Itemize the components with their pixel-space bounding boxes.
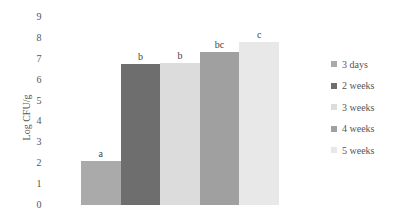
y-tick-label: 5 xyxy=(33,95,45,106)
y-tick-label: 4 xyxy=(33,115,45,126)
y-axis-label: Log CFU/g xyxy=(21,95,32,141)
bar-2-weeks xyxy=(121,64,161,205)
bar-3-weeks xyxy=(160,63,200,205)
legend-item: 2 weeks xyxy=(331,81,375,91)
significance-label: a xyxy=(81,148,121,159)
legend-item: 3 days xyxy=(331,59,375,69)
y-tick-label: 2 xyxy=(33,157,45,168)
legend-swatch-icon xyxy=(331,104,337,110)
y-tick-label: 1 xyxy=(33,178,45,189)
significance-label: b xyxy=(160,50,200,61)
bar-4-weeks xyxy=(200,52,240,205)
y-tick-label: 8 xyxy=(33,32,45,43)
significance-label: b xyxy=(121,51,161,62)
legend-label: 3 days xyxy=(342,59,368,70)
significance-label: c xyxy=(239,29,279,40)
y-tick-label: 0 xyxy=(33,199,45,210)
y-tick-label: 6 xyxy=(33,74,45,85)
legend-swatch-icon xyxy=(331,147,337,153)
legend-item: 5 weeks xyxy=(331,145,375,155)
legend: 3 days2 weeks3 weeks4 weeks5 weeks xyxy=(331,59,375,167)
legend-label: 4 weeks xyxy=(342,123,375,134)
bar-3-days xyxy=(81,161,121,205)
legend-label: 2 weeks xyxy=(342,80,375,91)
bar-5-weeks xyxy=(239,42,279,205)
legend-label: 5 weeks xyxy=(342,145,375,156)
legend-item: 3 weeks xyxy=(331,102,375,112)
legend-swatch-icon xyxy=(331,83,337,89)
legend-swatch-icon xyxy=(331,126,337,132)
legend-swatch-icon xyxy=(331,61,337,67)
y-tick-label: 7 xyxy=(33,53,45,64)
legend-item: 4 weeks xyxy=(331,124,375,134)
legend-label: 3 weeks xyxy=(342,102,375,113)
bar-chart: Log CFU/g 0123456789 abbbcc 3 days2 week… xyxy=(0,0,393,219)
y-tick-label: 3 xyxy=(33,136,45,147)
significance-label: bc xyxy=(200,39,240,50)
y-tick-label: 9 xyxy=(33,11,45,22)
